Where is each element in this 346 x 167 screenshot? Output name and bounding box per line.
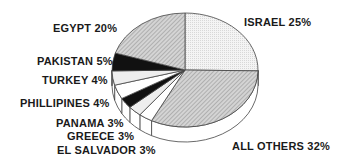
label-turkey: TURKEY 4%	[42, 74, 108, 86]
label-egypt: EGYPT 20%	[53, 22, 117, 34]
label-el-salvador: EL SALVADOR 3%	[57, 144, 156, 156]
label-all-others: ALL OTHERS 32%	[232, 140, 330, 152]
label-israel: ISRAEL 25%	[244, 16, 311, 28]
label-phillipines: PHILLIPINES 4%	[20, 97, 110, 109]
label-panama: PANAMA 3%	[56, 117, 124, 129]
label-greece: GREECE 3%	[67, 130, 134, 142]
pie-slices	[112, 13, 258, 142]
label-pakistan: PAKISTAN 5%	[37, 55, 113, 67]
